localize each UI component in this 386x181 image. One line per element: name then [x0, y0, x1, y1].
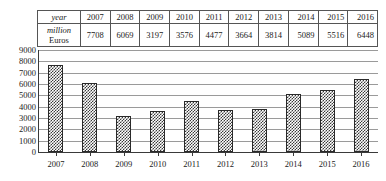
value-cell-8: 5516 — [318, 24, 348, 47]
year-cell-4: 2011 — [199, 11, 229, 24]
gridline-7000 — [39, 73, 378, 74]
value-cell-2: 3197 — [140, 24, 170, 47]
bar-2013 — [252, 109, 267, 152]
y-axis-labels: 0100020003000400050006000700080009000 — [0, 48, 36, 158]
year-cell-2: 2009 — [140, 11, 170, 24]
bar-2012 — [218, 110, 233, 152]
year-cell-6: 2013 — [259, 11, 289, 24]
x-tick-2008 — [90, 153, 91, 156]
plot-area — [39, 50, 378, 152]
bar-2014 — [286, 94, 301, 152]
value-cell-6: 3814 — [259, 24, 289, 47]
data-table: year 2007 2008 2009 2010 2011 2012 2013 … — [37, 10, 378, 47]
bar-2008 — [82, 83, 97, 152]
bar-2007 — [48, 65, 63, 152]
x-tick-2016 — [361, 153, 362, 156]
x-tick-2007 — [56, 153, 57, 156]
bar-2010 — [150, 111, 165, 152]
gridline-9000 — [39, 50, 378, 51]
value-cell-5: 3664 — [229, 24, 259, 47]
year-cell-8: 2015 — [318, 11, 348, 24]
y-tick-label-9000: 9000 — [2, 46, 36, 54]
x-tick-2009 — [124, 153, 125, 156]
value-cell-3: 3576 — [170, 24, 200, 47]
x-tick-2013 — [259, 153, 260, 156]
y-tick-label-2000: 2000 — [2, 125, 36, 133]
value-cell-0: 7708 — [81, 24, 111, 47]
year-cell-3: 2010 — [170, 11, 200, 24]
x-tick-2012 — [225, 153, 226, 156]
row-label-euros: Euros — [49, 35, 69, 45]
bar-chart: 0100020003000400050006000700080009000 20… — [0, 48, 386, 181]
y-tick-label-0: 0 — [2, 148, 36, 156]
y-tick-label-5000: 5000 — [2, 91, 36, 99]
y-tick-label-1000: 1000 — [2, 137, 36, 145]
x-tick-label-2016: 2016 — [341, 159, 381, 169]
value-cell-9: 6448 — [348, 24, 378, 47]
x-tick-2011 — [192, 153, 193, 156]
year-cell-5: 2012 — [229, 11, 259, 24]
bar-2011 — [184, 101, 199, 152]
row-label-million: million — [40, 25, 78, 35]
y-tick-label-8000: 8000 — [2, 57, 36, 65]
value-cell-4: 4477 — [199, 24, 229, 47]
value-cell-1: 6069 — [110, 24, 140, 47]
x-tick-2014 — [293, 153, 294, 156]
row-label-million-euros: millionEuros — [38, 24, 81, 47]
x-tick-2010 — [158, 153, 159, 156]
bar-2009 — [116, 116, 131, 152]
year-cell-7: 2014 — [288, 11, 318, 24]
y-tick-label-6000: 6000 — [2, 80, 36, 88]
bar-2016 — [354, 79, 369, 152]
row-label-year: year — [38, 11, 81, 24]
x-tick-2015 — [327, 153, 328, 156]
table-row-years: year 2007 2008 2009 2010 2011 2012 2013 … — [38, 11, 378, 24]
table-row-values: millionEuros 7708 6069 3197 3576 4477 36… — [38, 24, 378, 47]
year-cell-0: 2007 — [81, 11, 111, 24]
y-tick-label-3000: 3000 — [2, 114, 36, 122]
gridline-8000 — [39, 61, 378, 62]
year-cell-9: 2016 — [348, 11, 378, 24]
value-cell-7: 5089 — [288, 24, 318, 47]
y-axis-line — [38, 50, 39, 153]
y-tick-label-4000: 4000 — [2, 103, 36, 111]
y-tick-label-7000: 7000 — [2, 69, 36, 77]
bar-2015 — [320, 90, 335, 153]
year-cell-1: 2008 — [110, 11, 140, 24]
